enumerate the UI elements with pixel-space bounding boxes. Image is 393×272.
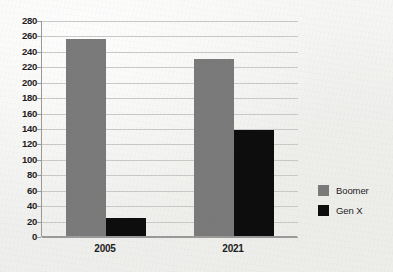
y-tick-mark-40 xyxy=(37,206,41,207)
y-tick-mark-260 xyxy=(37,36,41,37)
y-tick-label-280: 280 xyxy=(1,16,37,26)
gridline-280 xyxy=(42,21,298,22)
y-tick-label-120: 120 xyxy=(1,139,37,149)
y-tick-mark-60 xyxy=(37,191,41,192)
y-tick-label-220: 220 xyxy=(1,62,37,72)
x-tick-label-2005: 2005 xyxy=(45,243,165,254)
legend-item-boomer[interactable]: Boomer xyxy=(318,182,369,199)
legend-item-gen-x[interactable]: Gen X xyxy=(318,202,369,219)
y-tick-label-200: 200 xyxy=(1,78,37,88)
y-tick-mark-220 xyxy=(37,67,41,68)
plot-area xyxy=(41,21,297,237)
y-tick-mark-240 xyxy=(37,52,41,53)
y-tick-mark-280 xyxy=(37,21,41,22)
y-tick-label-80: 80 xyxy=(1,170,37,180)
gridline-0 xyxy=(42,237,298,238)
chart-legend: BoomerGen X xyxy=(318,182,369,222)
y-tick-mark-160 xyxy=(37,114,41,115)
y-tick-label-140: 140 xyxy=(1,124,37,134)
legend-label: Gen X xyxy=(336,205,362,216)
bar-gen-x-2021 xyxy=(234,130,274,236)
x-tick-label-2021: 2021 xyxy=(173,243,293,254)
y-tick-mark-20 xyxy=(37,222,41,223)
chart-canvas: 280260240220200180160140120100806040200 … xyxy=(0,0,393,272)
y-tick-mark-100 xyxy=(37,160,41,161)
legend-swatch-icon xyxy=(318,205,329,216)
legend-label: Boomer xyxy=(336,185,369,196)
gridline-260 xyxy=(42,36,298,37)
y-tick-mark-0 xyxy=(37,237,41,238)
y-tick-mark-80 xyxy=(37,175,41,176)
bar-boomer-2005 xyxy=(66,39,106,236)
y-tick-mark-120 xyxy=(37,144,41,145)
y-tick-label-260: 260 xyxy=(1,31,37,41)
y-tick-label-240: 240 xyxy=(1,47,37,57)
bar-boomer-2021 xyxy=(194,59,234,236)
y-tick-mark-200 xyxy=(37,83,41,84)
y-tick-label-60: 60 xyxy=(1,186,37,196)
y-tick-label-20: 20 xyxy=(1,217,37,227)
y-tick-mark-140 xyxy=(37,129,41,130)
legend-swatch-icon xyxy=(318,185,329,196)
y-tick-mark-180 xyxy=(37,98,41,99)
y-tick-label-180: 180 xyxy=(1,93,37,103)
bar-gen-x-2005 xyxy=(106,218,146,237)
y-tick-label-40: 40 xyxy=(1,201,37,211)
y-tick-label-160: 160 xyxy=(1,109,37,119)
y-tick-label-100: 100 xyxy=(1,155,37,165)
y-tick-label-0: 0 xyxy=(1,232,37,242)
